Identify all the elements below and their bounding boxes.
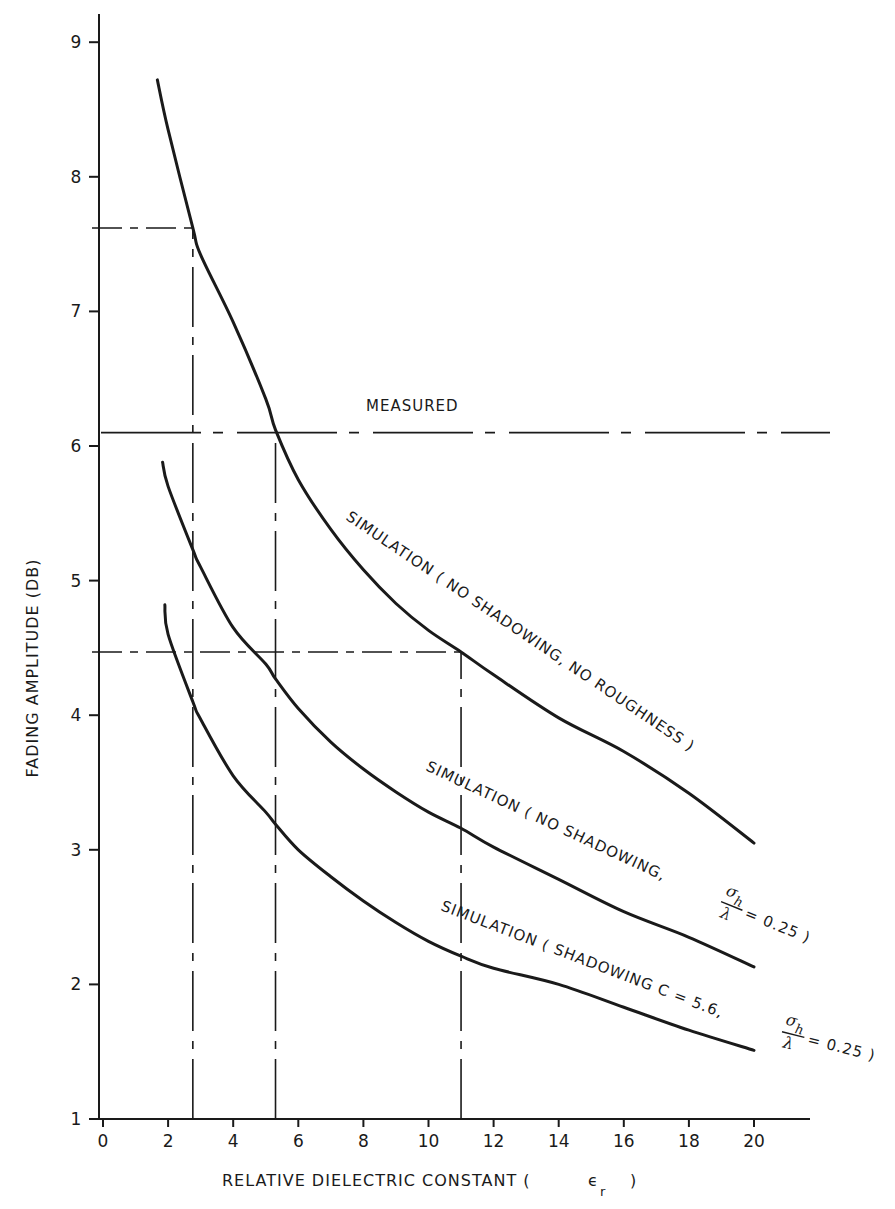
y-tick-label: 6: [71, 436, 82, 456]
x-tick-label: 10: [418, 1131, 440, 1151]
fading-amplitude-chart: 12345678902468101214161820 FADING AMPLIT…: [0, 0, 895, 1209]
curve2-label-tail: = 0.25 ): [742, 904, 813, 947]
lambda-symbol: λ: [717, 903, 734, 925]
x-tick-label: 4: [228, 1131, 239, 1151]
y-tick-label: 2: [71, 974, 82, 994]
x-tick-label: 2: [163, 1131, 174, 1151]
x-tick-label: 18: [678, 1131, 700, 1151]
y-tick-label: 9: [71, 32, 82, 52]
y-tick-label: 3: [71, 840, 82, 860]
x-axis-label-close: ): [630, 1171, 637, 1190]
y-axis-label: FADING AMPLITUDE (DB): [23, 559, 42, 778]
y-tick-label: 7: [71, 301, 82, 321]
x-tick-label: 0: [98, 1131, 109, 1151]
lambda-symbol: λ: [780, 1032, 795, 1053]
curve1-label: SIMULATION ( NO SHADOWING, NO ROUGHNESS …: [343, 507, 699, 755]
reference-lines: [92, 228, 461, 1119]
curve3-label: SIMULATION ( SHADOWING C = 5.6, σ h λ = …: [439, 897, 882, 1074]
x-tick-label: 14: [548, 1131, 570, 1151]
x-tick-label: 12: [483, 1131, 505, 1151]
epsilon-symbol: ϵ: [588, 1171, 599, 1190]
y-tick-label: 4: [71, 705, 82, 725]
x-tick-label: 8: [358, 1131, 369, 1151]
y-tick-label: 5: [71, 571, 82, 591]
curve3-label-tail: = 0.25 ): [806, 1031, 878, 1065]
y-tick-label: 8: [71, 167, 82, 187]
x-tick-label: 6: [293, 1131, 304, 1151]
curve2-label-text: SIMULATION ( NO SHADOWING,: [423, 757, 669, 884]
x-axis-label-text: RELATIVE DIELECTRIC CONSTANT (: [222, 1171, 531, 1190]
curve3-label-text: SIMULATION ( SHADOWING C = 5.6,: [439, 897, 727, 1022]
x-axis-label: RELATIVE DIELECTRIC CONSTANT ( ϵ r ): [222, 1171, 637, 1199]
x-tick-label: 20: [743, 1131, 765, 1151]
curve2-fraction: σ h λ = 0.25 ): [714, 880, 819, 955]
curve3-fraction: σ h λ = 0.25 ): [777, 1009, 881, 1073]
epsilon-subscript: r: [600, 1184, 606, 1199]
x-tick-label: 16: [613, 1131, 635, 1151]
curve-2: [163, 462, 754, 967]
measured-label: MEASURED: [366, 397, 459, 415]
y-tick-label: 1: [71, 1109, 82, 1129]
